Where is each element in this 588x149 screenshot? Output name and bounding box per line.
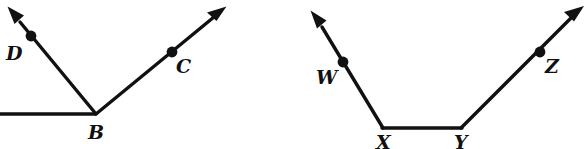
ray-BC-shaft <box>96 17 214 114</box>
point-label-W: W <box>316 68 337 87</box>
diagram-angle-WXYZ <box>311 6 585 128</box>
point-label-C: C <box>176 57 191 76</box>
diagram-angle-DBC <box>0 7 227 115</box>
point-label-X: X <box>376 133 391 149</box>
point-dot-W <box>338 57 349 68</box>
point-dot-D <box>26 31 37 42</box>
point-label-Y: Y <box>454 133 468 149</box>
point-label-B: B <box>88 123 104 142</box>
point-label-D: D <box>6 44 22 63</box>
ray-XW-arrowhead <box>311 11 327 29</box>
ray-YZ-arrowhead <box>564 6 584 22</box>
point-label-Z: Z <box>545 57 559 76</box>
geometry-figure-canvas: D C B W Z X Y <box>0 0 588 149</box>
point-dot-Z <box>535 47 546 58</box>
